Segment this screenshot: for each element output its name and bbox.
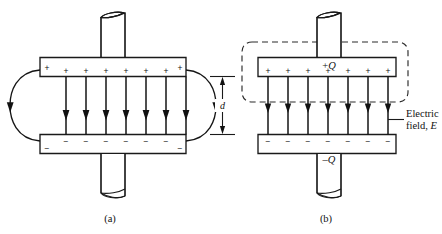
panel-a-bottom-lead	[101, 154, 125, 198]
charge-sign-minus: −	[286, 136, 291, 146]
charge-sign-plus: +	[104, 66, 109, 76]
charge-sign-minus: −	[104, 136, 109, 146]
charge-sign-plus: +	[144, 66, 149, 76]
charge-sign-minus: −	[346, 136, 351, 146]
field-annotation-line2: field, E	[406, 120, 438, 131]
charge-sign-minus: −	[45, 143, 50, 153]
charge-sign-plus: +	[178, 63, 183, 73]
negative-charge-label: –Q	[322, 154, 336, 165]
charge-sign-plus: +	[164, 66, 169, 76]
charge-sign-minus: −	[306, 136, 311, 146]
charge-sign-plus: +	[84, 66, 89, 76]
charge-sign-plus: +	[306, 66, 311, 76]
field-annotation-line1: Electric	[406, 108, 439, 119]
panel-b-top-lead	[317, 12, 341, 57]
charge-sign-minus: −	[386, 136, 391, 146]
figure-container: + + + + + + + + − − − − − − − −	[0, 0, 442, 234]
panel-a-top-lead	[101, 12, 125, 57]
charge-sign-minus: −	[366, 136, 371, 146]
charge-sign-plus: +	[326, 66, 331, 76]
charge-sign-plus: +	[266, 66, 271, 76]
charge-sign-minus: −	[144, 136, 149, 146]
charge-sign-minus: −	[164, 136, 169, 146]
charge-sign-plus: +	[366, 66, 371, 76]
charge-sign-plus: +	[346, 66, 351, 76]
charge-sign-minus: −	[326, 136, 331, 146]
charge-sign-plus: +	[64, 66, 69, 76]
charge-sign-plus: +	[286, 66, 291, 76]
charge-sign-minus: −	[64, 136, 69, 146]
charge-sign-minus: −	[178, 143, 183, 153]
charge-sign-minus: −	[124, 136, 129, 146]
panel-b-caption: (b)	[320, 213, 333, 225]
capacitor-diagram: + + + + + + + + − − − − − − − −	[0, 0, 442, 234]
charge-sign-plus: +	[386, 66, 391, 76]
charge-sign-plus: +	[124, 66, 129, 76]
panel-a-caption: (a)	[104, 213, 116, 225]
charge-sign-minus: −	[266, 136, 271, 146]
charge-sign-minus: −	[84, 136, 89, 146]
charge-sign-plus: +	[45, 63, 50, 73]
